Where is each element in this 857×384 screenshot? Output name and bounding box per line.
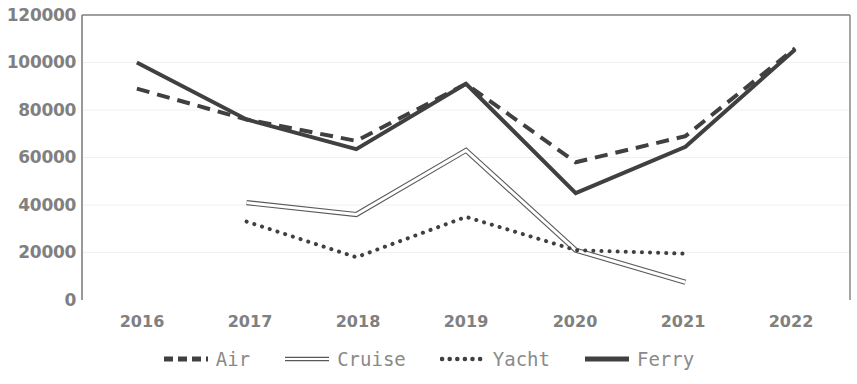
- legend-label: Yacht: [493, 348, 550, 370]
- thin-line-icon: [284, 352, 330, 366]
- series-line-cruise: [247, 150, 686, 282]
- line-chart: 120000 100000 80000 60000 40000 20000 0 …: [0, 0, 857, 384]
- series-line-air: [137, 48, 795, 162]
- chart-legend: Air Cruise Yacht Ferry: [0, 348, 857, 370]
- legend-item-ferry: Ferry: [584, 348, 694, 370]
- series-layer: [137, 48, 795, 282]
- legend-item-cruise: Cruise: [284, 348, 406, 370]
- plot-area: [0, 0, 857, 384]
- solid-line-icon: [584, 352, 630, 366]
- legend-item-yacht: Yacht: [440, 348, 550, 370]
- legend-item-air: Air: [163, 348, 250, 370]
- dashed-line-icon: [163, 352, 209, 366]
- legend-label: Cruise: [337, 348, 406, 370]
- gridlines: [82, 63, 850, 253]
- legend-label: Air: [216, 348, 250, 370]
- legend-label: Ferry: [637, 348, 694, 370]
- dotted-line-icon: [440, 352, 486, 366]
- series-line-yacht: [247, 217, 686, 257]
- series-line-ferry: [137, 49, 795, 193]
